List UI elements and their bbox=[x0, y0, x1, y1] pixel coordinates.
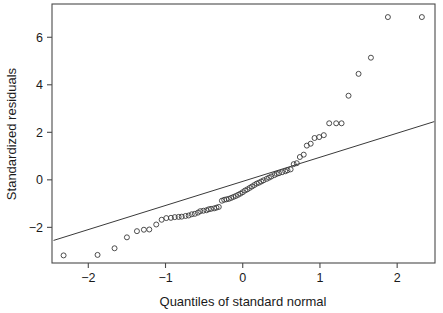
y-tick-label: 0 bbox=[36, 173, 43, 187]
x-tick-label: 0 bbox=[239, 271, 246, 285]
y-axis-label: Standardized residuals bbox=[4, 67, 19, 200]
figure-background bbox=[0, 0, 443, 313]
x-tick-label: 2 bbox=[394, 271, 401, 285]
x-tick-label: −1 bbox=[158, 271, 172, 285]
x-tick-label: 1 bbox=[316, 271, 323, 285]
qq-plot-figure: −2−1012 −20246 Quantiles of standard nor… bbox=[0, 0, 443, 313]
x-axis-label: Quantiles of standard normal bbox=[160, 294, 327, 309]
y-tick-label: 2 bbox=[36, 126, 43, 140]
x-tick-label: −2 bbox=[81, 271, 95, 285]
y-tick-label: 4 bbox=[36, 78, 43, 92]
y-tick-label: 6 bbox=[36, 31, 43, 45]
qq-plot-canvas: −2−1012 −20246 Quantiles of standard nor… bbox=[0, 0, 443, 313]
y-tick-label: −2 bbox=[29, 221, 43, 235]
